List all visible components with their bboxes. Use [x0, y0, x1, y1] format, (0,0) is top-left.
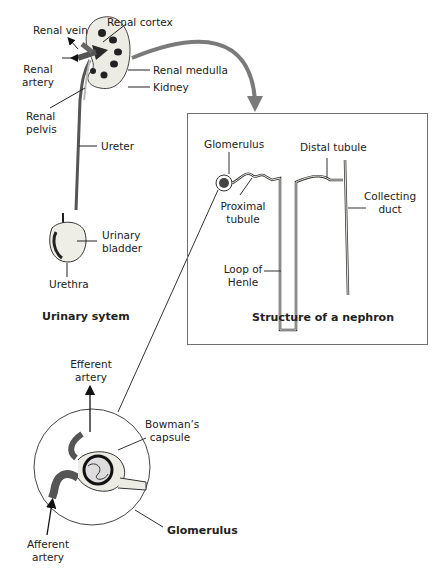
kidney-illustration — [76, 17, 130, 210]
label-renal-pelvis: Renal pelvis — [26, 110, 57, 136]
label-renal-vein: Renal vein — [33, 24, 88, 37]
label-renal-medulla: Renal medulla — [153, 64, 228, 77]
glomerulus-detail-illustration — [34, 390, 163, 535]
nephron-title: Structure of a nephron — [252, 311, 394, 324]
label-loop-of-henle: Loop of Henle — [222, 263, 264, 289]
label-urinary-bladder: Urinary bladder — [102, 229, 142, 255]
label-bowmans-capsule: Bowman’s capsule — [145, 418, 195, 444]
label-distal-tubule: Distal tubule — [300, 141, 367, 154]
label-efferent-artery: Efferent artery — [68, 358, 114, 384]
label-collecting-duct: Collecting duct — [362, 190, 418, 216]
label-urethra: Urethra — [49, 278, 89, 291]
urinary-system-title: Urinary sytem — [42, 310, 130, 323]
label-glomerulus: Glomerulus — [204, 138, 264, 151]
label-renal-cortex: Renal cortex — [107, 16, 173, 29]
glomerulus-detail-title: Glomerulus — [167, 524, 238, 537]
label-renal-artery: Renal artery — [20, 63, 56, 89]
label-proximal-tubule: Proximal tubule — [218, 200, 268, 226]
bladder-illustration — [50, 213, 97, 277]
label-ureter: Ureter — [101, 140, 134, 153]
label-afferent-artery: Afferent artery — [25, 538, 71, 564]
label-kidney: Kidney — [153, 81, 189, 94]
